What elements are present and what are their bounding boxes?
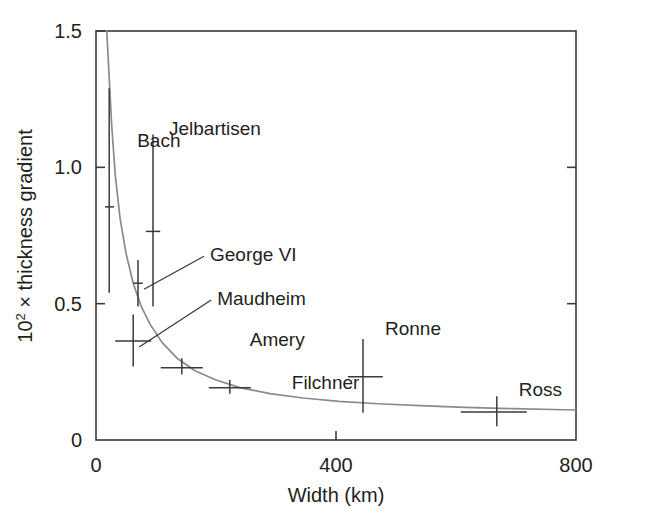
x-axis-title: Width (km) [288, 484, 385, 506]
point-label-ronne: Ronne [385, 318, 441, 339]
scatter-plot: BachJelbartisenGeorge VIMaudheimAmeryFil… [0, 0, 650, 514]
x-tick-label: 0 [90, 454, 101, 476]
point-label-ross: Ross [519, 379, 562, 400]
point-label-jelbartisen: Jelbartisen [169, 118, 261, 139]
point-label-maudheim: Maudheim [217, 288, 306, 309]
point-label-filchner: Filchner [292, 372, 360, 393]
y-axis-title-exponent: 2 [13, 313, 28, 320]
y-tick-label: 1.5 [54, 20, 82, 42]
point-label-george-vi: George VI [210, 244, 297, 265]
chart-figure: BachJelbartisenGeorge VIMaudheimAmeryFil… [0, 0, 650, 514]
y-tick-label: 1.0 [54, 156, 82, 178]
y-tick-label: 0.5 [54, 293, 82, 315]
plot-background [0, 0, 650, 514]
y-tick-label: 0 [71, 429, 82, 451]
x-tick-label: 400 [319, 454, 352, 476]
y-axis-title: 102 × thickness gradient [13, 129, 36, 343]
svg-text:102 × thickness gradient: 102 × thickness gradient [13, 129, 36, 343]
x-tick-label: 800 [559, 454, 592, 476]
point-label-amery: Amery [250, 329, 305, 350]
y-axis-title-base: 10 [14, 320, 36, 342]
y-axis-title-rest: × thickness gradient [14, 129, 36, 313]
